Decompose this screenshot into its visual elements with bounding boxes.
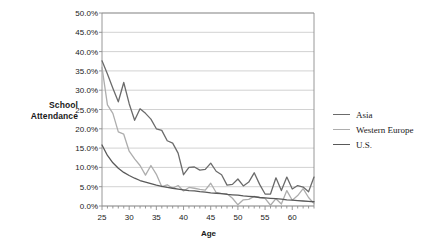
x-axis-title: Age [102, 229, 315, 238]
x-tick-label: 60 [288, 213, 297, 222]
x-tick-label: 35 [152, 213, 161, 222]
legend-item[interactable]: Western Europe [333, 122, 414, 137]
legend-color-swatch [333, 129, 350, 130]
x-tick-label: 55 [261, 213, 270, 222]
series-line-western-europe [102, 67, 314, 205]
series-line-asia [102, 61, 314, 194]
x-tick-label: 40 [179, 213, 188, 222]
legend-label: Western Europe [356, 125, 414, 135]
x-tick-label: 45 [206, 213, 215, 222]
chart-legend: AsiaWestern EuropeU.S. [333, 107, 414, 152]
x-tick-label: 30 [125, 213, 134, 222]
chart-container: School Attendance 0.0%5.0%10.0%15.0%20.0… [0, 0, 445, 252]
x-tick-label: 25 [98, 213, 107, 222]
legend-item[interactable]: Asia [333, 107, 414, 122]
x-tick-label: 50 [233, 213, 242, 222]
legend-color-swatch [333, 144, 350, 145]
legend-color-swatch [333, 114, 350, 115]
legend-label: U.S. [356, 140, 372, 150]
legend-label: Asia [356, 110, 373, 120]
legend-item[interactable]: U.S. [333, 137, 414, 152]
series-line-u-s [102, 145, 314, 202]
